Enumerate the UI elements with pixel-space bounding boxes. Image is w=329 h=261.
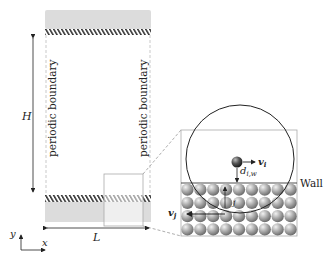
v-j-label: vj (168, 207, 177, 220)
inset-detail: vi di,w j vj (168, 105, 297, 236)
axis-y-label: y (9, 228, 16, 239)
wall-label: Wall (300, 177, 323, 189)
wall-particle (181, 197, 193, 209)
wall-particle (181, 183, 193, 195)
wall-particle (181, 210, 193, 222)
axis-x-label: x (42, 237, 48, 248)
wall-particle (284, 210, 296, 222)
domain-diagram: periodic boundary periodic boundary H L … (0, 0, 329, 261)
wall-particle (207, 223, 219, 235)
wall-particle (246, 197, 258, 209)
wall-particle (272, 223, 284, 235)
wall-particle (259, 210, 271, 222)
wall-particle (233, 183, 245, 195)
wall-particle (220, 183, 232, 195)
wall-particle (194, 223, 206, 235)
height-label: H (21, 110, 32, 123)
wall-particle (181, 223, 193, 235)
wall-particle (284, 183, 296, 195)
top-wall (45, 10, 151, 35)
wall-particle (220, 223, 232, 235)
zoom-connector-bottom (143, 226, 181, 236)
wall-particle (220, 197, 232, 209)
wall-particle (246, 223, 258, 235)
length-dimension: L (47, 228, 149, 244)
height-dimension: H (21, 38, 33, 192)
wall-particle (194, 210, 206, 222)
wall-particle (272, 197, 284, 209)
periodic-boundary-left-label: periodic boundary (46, 59, 58, 157)
wall-particle (233, 210, 245, 222)
wall-particle (284, 223, 296, 235)
wall-particle (207, 183, 219, 195)
wall-particle (246, 183, 258, 195)
zoom-region (104, 174, 143, 226)
wall-particle (194, 197, 206, 209)
wall-particle (207, 210, 219, 222)
wall-particle (272, 183, 284, 195)
coordinate-axes: y x (9, 228, 48, 250)
wall-particle (259, 183, 271, 195)
wall-particle (259, 223, 271, 235)
wall-particle (284, 197, 296, 209)
length-label: L (92, 231, 100, 244)
wall-particle (272, 210, 284, 222)
wall-particle (233, 223, 245, 235)
periodic-boundary-right-label: periodic boundary (137, 59, 149, 157)
